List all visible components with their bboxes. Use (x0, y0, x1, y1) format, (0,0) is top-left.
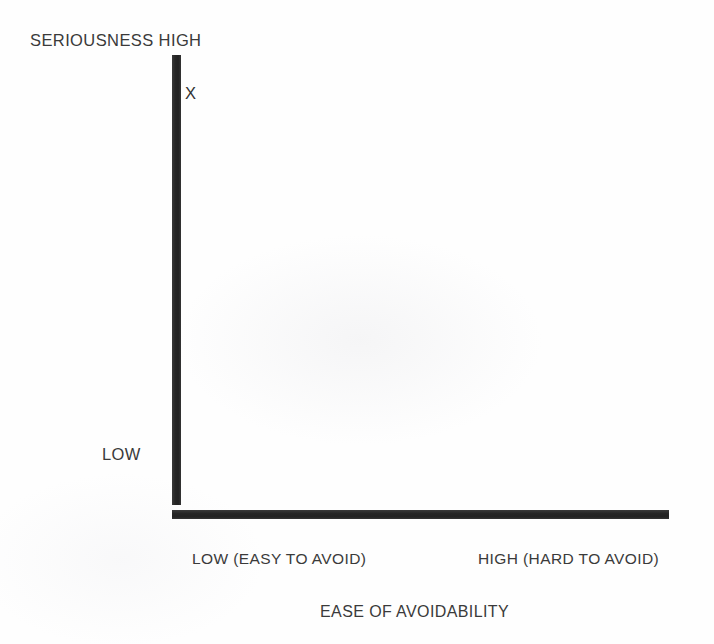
avoidability-seriousness-matrix: SERIOUSNESS HIGH LOW X LOW (EASY TO AVOI… (0, 0, 714, 644)
x-axis-high-label: HIGH (HARD TO AVOID) (478, 550, 659, 568)
y-axis-line (172, 55, 181, 505)
x-axis-low-label: LOW (EASY TO AVOID) (192, 550, 366, 568)
x-axis-line (172, 510, 669, 519)
x-axis-title: EASE OF AVOIDABILITY (320, 603, 509, 621)
y-axis-low-label: LOW (102, 445, 141, 464)
data-point-marker-x: X (185, 84, 196, 103)
y-axis-high-label: SERIOUSNESS HIGH (30, 31, 201, 50)
paper-texture (0, 0, 714, 644)
